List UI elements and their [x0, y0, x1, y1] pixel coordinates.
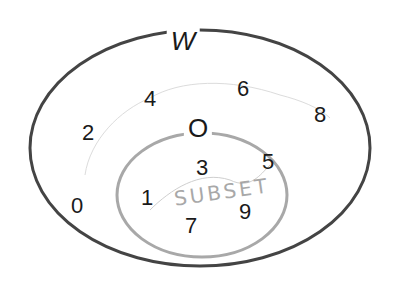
element-2: 2 [82, 122, 94, 144]
element-6: 6 [237, 78, 249, 100]
set-label-w: W [167, 28, 200, 54]
set-label-o: O [184, 115, 212, 141]
element-7: 7 [185, 215, 197, 237]
outer-set-w-ellipse [30, 30, 370, 266]
element-4: 4 [144, 88, 156, 110]
element-8: 8 [314, 104, 326, 126]
element-9: 9 [239, 201, 251, 223]
element-3: 3 [196, 157, 208, 179]
element-1: 1 [141, 187, 153, 209]
element-5: 5 [262, 151, 274, 173]
element-0: 0 [71, 195, 83, 217]
